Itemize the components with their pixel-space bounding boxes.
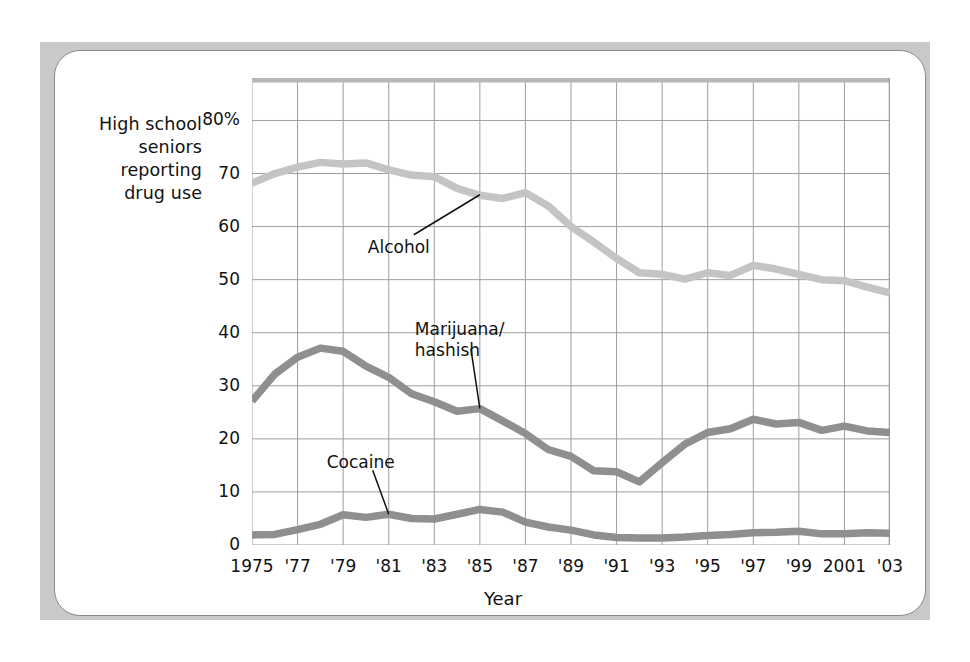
y-tick-label: 10 [180,481,240,501]
y-tick-label: 80% [180,109,240,129]
x-tick-label: '83 [421,556,447,576]
annotation-label-alcohol: Alcohol [368,237,430,258]
y-tick-label: 50 [180,269,240,289]
y-tick-label: 70 [180,163,240,183]
x-tick-label: 2001 [823,556,866,576]
y-tick-label: 30 [180,375,240,395]
x-tick-label: '99 [786,556,812,576]
plot-area [252,78,890,545]
x-tick-label: '03 [877,556,903,576]
y-tick-label: 20 [180,428,240,448]
y-tick-label: 0 [180,534,240,554]
y-tick-label: 60 [180,216,240,236]
x-tick-label: '85 [467,556,493,576]
x-tick-label: '93 [649,556,675,576]
y-tick-label: 40 [180,322,240,342]
figure-root: High school seniors reporting drug use 8… [0,0,970,662]
y-axis-caption-line-2: seniors [52,136,202,159]
y-axis-caption-line-4: drug use [52,182,202,205]
annotation-label-marijuana-hashish: Marijuana/hashish [415,319,505,361]
line-chart-svg [252,78,890,545]
x-tick-label: '89 [558,556,584,576]
annotation-label-line-2: hashish [415,340,505,361]
x-tick-label: '97 [740,556,766,576]
x-tick-label: '79 [330,556,356,576]
annotation-label-line-1: Marijuana/ [415,319,505,340]
x-tick-label: '77 [284,556,310,576]
x-tick-label: '87 [512,556,538,576]
x-tick-label: '91 [603,556,629,576]
x-tick-label: '81 [376,556,402,576]
x-tick-label: 1975 [230,556,273,576]
x-tick-label: '95 [695,556,721,576]
x-axis-title-text: Year [484,588,522,609]
x-axis-title: Year [0,588,970,609]
annotation-label-cocaine: Cocaine [327,452,395,473]
